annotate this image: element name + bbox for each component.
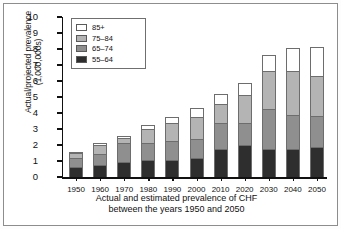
legend-item[interactable]: 75–84 xyxy=(76,33,141,43)
bar-2000[interactable] xyxy=(190,108,204,177)
y-tick-label: 1 xyxy=(16,155,38,166)
legend-swatch xyxy=(76,35,87,42)
x-tick xyxy=(293,177,294,181)
legend-label: 65–74 xyxy=(92,44,113,53)
bar-segment xyxy=(165,123,179,141)
bar-segment xyxy=(190,108,204,117)
bar-segment xyxy=(93,145,107,154)
legend-label: 55–64 xyxy=(92,55,113,64)
bar-segment xyxy=(141,160,155,177)
x-tick xyxy=(148,177,149,181)
legend-item[interactable]: 65–74 xyxy=(76,44,141,54)
bar-2020[interactable] xyxy=(238,83,252,177)
legend-swatch xyxy=(76,45,87,52)
y-tick-label: 0 xyxy=(16,171,38,182)
bar-segment xyxy=(286,48,300,72)
legend-label: 85+ xyxy=(92,23,105,32)
chart-frame: Actual/projected prevalence (1,000,000s)… xyxy=(3,3,338,226)
bar-segment xyxy=(238,83,252,95)
bar-segment xyxy=(117,143,131,161)
bar-segment xyxy=(262,71,276,109)
bar-segment xyxy=(310,47,324,76)
legend-item[interactable]: 55–64 xyxy=(76,54,141,64)
bar-segment xyxy=(310,116,324,148)
bar-2050[interactable] xyxy=(310,47,324,177)
bar-segment xyxy=(262,149,276,177)
legend-swatch xyxy=(76,56,87,63)
y-tick-label: 3 xyxy=(16,123,38,134)
chart-legend: 85+75–8465–7455–64 xyxy=(71,18,146,69)
bar-segment xyxy=(93,165,107,177)
y-tick-label: 4 xyxy=(16,107,38,118)
bar-1990[interactable] xyxy=(165,117,179,177)
bar-segment xyxy=(214,94,228,105)
legend-swatch xyxy=(76,24,87,31)
bar-1980[interactable] xyxy=(141,125,155,177)
y-tick-label: 2 xyxy=(16,139,38,150)
legend-item[interactable]: 85+ xyxy=(76,23,141,33)
bar-1960[interactable] xyxy=(93,143,107,177)
bar-segment xyxy=(238,145,252,177)
bar-segment xyxy=(165,160,179,177)
bar-segment xyxy=(141,129,155,143)
x-tick xyxy=(100,177,101,181)
bar-segment xyxy=(238,123,252,145)
y-tick-label: 5 xyxy=(16,91,38,102)
bar-segment xyxy=(190,158,204,177)
x-axis-line xyxy=(62,177,327,179)
bar-1970[interactable] xyxy=(117,136,131,177)
x-tick xyxy=(245,177,246,181)
bar-2030[interactable] xyxy=(262,55,276,177)
bar-segment xyxy=(214,104,228,123)
bar-1950[interactable] xyxy=(69,152,83,177)
y-tick-label: 6 xyxy=(16,75,38,86)
y-tick-label: 7 xyxy=(16,59,38,70)
bar-segment xyxy=(310,147,324,177)
bar-segment xyxy=(286,115,300,148)
bar-segment xyxy=(214,123,228,148)
y-tick-label: 10 xyxy=(16,11,38,22)
y-axis-line xyxy=(62,17,63,177)
bar-segment xyxy=(117,162,131,177)
bar-segment xyxy=(93,154,107,165)
x-tick xyxy=(317,177,318,181)
caption-line-1: Actual and estimated prevalence of CHF xyxy=(24,193,329,204)
chart-figure: Actual/projected prevalence (1,000,000s)… xyxy=(0,0,341,229)
x-tick xyxy=(197,177,198,181)
caption-line-2: between the years 1950 and 2050 xyxy=(24,204,329,215)
bar-segment xyxy=(214,149,228,177)
bar-segment xyxy=(190,117,204,139)
legend-label: 75–84 xyxy=(92,34,113,43)
y-tick-label: 9 xyxy=(16,27,38,38)
bar-segment xyxy=(69,167,83,177)
bar-segment xyxy=(69,158,83,167)
x-tick xyxy=(76,177,77,181)
y-tick-label: 8 xyxy=(16,43,38,54)
bar-segment xyxy=(165,141,179,160)
bar-segment xyxy=(238,95,252,123)
bar-segment xyxy=(286,71,300,115)
bar-segment xyxy=(262,55,276,71)
bar-segment xyxy=(190,139,204,158)
bar-2040[interactable] xyxy=(286,48,300,177)
x-tick xyxy=(269,177,270,181)
bar-segment xyxy=(286,149,300,177)
bar-segment xyxy=(310,76,324,116)
x-tick xyxy=(172,177,173,181)
bar-segment xyxy=(262,109,276,150)
x-tick xyxy=(221,177,222,181)
bar-segment xyxy=(141,143,155,160)
x-tick xyxy=(124,177,125,181)
chart-caption: Actual and estimated prevalence of CHF b… xyxy=(24,193,329,215)
bar-2010[interactable] xyxy=(214,94,228,177)
